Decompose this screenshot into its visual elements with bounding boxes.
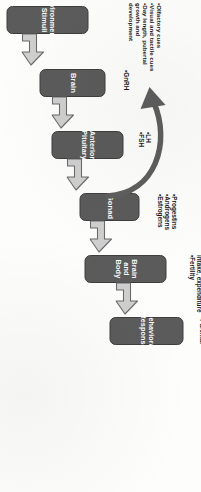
bullet-fertility: Fertility (188, 255, 195, 315)
elbow-arrow-icon (89, 220, 129, 254)
diagram-canvas: Environmental Stimuli Olfactory cues Vis… (0, 0, 201, 492)
connector-gonad-to-brain-and-body (89, 220, 129, 254)
curved-feedback-arrow-icon (95, 78, 173, 208)
annotation-brain-and-body: Energy storage, intake, expenditure Fert… (188, 255, 201, 315)
annotation-environmental-stimuli: Olfactory cues Visual and tactile cues D… (126, 3, 161, 69)
feedback-arrow-gonad-to-brain (95, 78, 173, 208)
connector-environmental-to-brain (21, 33, 61, 67)
node-brain-and-body[interactable]: Brain and Body (84, 255, 166, 283)
bullet-energy-storage: Energy storage, intake, expenditure (195, 255, 201, 315)
elbow-arrow-icon (51, 96, 91, 130)
node-brain-and-body-line1: Brain and Body (113, 256, 137, 282)
elbow-arrow-icon (21, 33, 61, 67)
rotated-diagram-group: Environmental Stimuli Olfactory cues Vis… (0, 0, 201, 492)
node-environmental-stimuli[interactable]: Environmental Stimuli (6, 6, 88, 34)
node-behavioral-response-line2: Response (138, 311, 146, 351)
bullet-day-length-pubertal: Day length, pubertal growth and developm… (126, 3, 147, 69)
bullet-parental: Parental (198, 317, 201, 371)
connector-brain-to-anterior-pituitary (51, 96, 91, 130)
node-brain-line1: Brain (68, 72, 76, 94)
node-anterior-pituitary-line2: Pituitary (79, 129, 87, 161)
node-behavioral-response[interactable]: Behavioral Response (109, 317, 183, 345)
annotation-behavioral-response: Courtship, mating Parental (198, 317, 201, 371)
